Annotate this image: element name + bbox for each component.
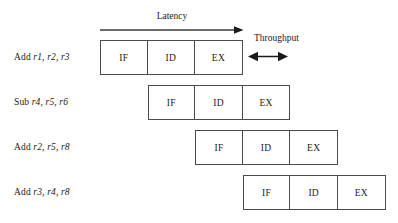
instruction-regs-2: r4, r5, r6 <box>32 97 68 107</box>
instruction-regs-1: r1, r2, r3 <box>33 52 69 62</box>
stage-box-if-4: IF <box>243 175 291 210</box>
pipeline-row-4: IF ID EX <box>243 175 386 210</box>
throughput-label: Throughput <box>254 34 299 44</box>
instruction-op-2: Sub <box>14 97 32 107</box>
stage-box-id-2: ID <box>195 85 243 120</box>
latency-annotation: Latency <box>100 12 244 32</box>
throughput-double-arrow-icon <box>248 51 288 62</box>
instruction-regs-3: r2, r5, r8 <box>33 142 69 152</box>
pipeline-row-1: IF ID EX <box>100 40 243 75</box>
stage-box-if-2: IF <box>148 85 196 120</box>
stage-box-if-3: IF <box>195 130 243 165</box>
pipeline-row-3: IF ID EX <box>195 130 338 165</box>
stage-box-ex-1: EX <box>195 40 243 75</box>
stage-box-ex-4: EX <box>338 175 386 210</box>
throughput-annotation: Throughput <box>248 34 324 64</box>
instruction-op-4: Add <box>14 187 33 197</box>
pipeline-row-2: IF ID EX <box>148 85 291 120</box>
instruction-label-3: Add r2, r5, r8 <box>14 143 70 153</box>
instruction-regs-4: r3, r4, r8 <box>33 187 69 197</box>
latency-arrow-icon <box>100 25 245 35</box>
stage-box-id-3: ID <box>243 130 291 165</box>
stage-box-if-1: IF <box>100 40 148 75</box>
instruction-op-3: Add <box>14 142 33 152</box>
stage-box-id-1: ID <box>148 40 196 75</box>
instruction-label-2: Sub r4, r5, r6 <box>14 98 68 108</box>
pipeline-diagram: Latency Throughput Add r1, r2, r3 IF ID … <box>0 0 398 223</box>
latency-label: Latency <box>100 12 244 22</box>
stage-box-ex-3: EX <box>290 130 338 165</box>
instruction-op-1: Add <box>14 52 33 62</box>
stage-box-id-4: ID <box>290 175 338 210</box>
stage-box-ex-2: EX <box>243 85 291 120</box>
instruction-label-4: Add r3, r4, r8 <box>14 188 70 198</box>
instruction-label-1: Add r1, r2, r3 <box>14 53 70 63</box>
